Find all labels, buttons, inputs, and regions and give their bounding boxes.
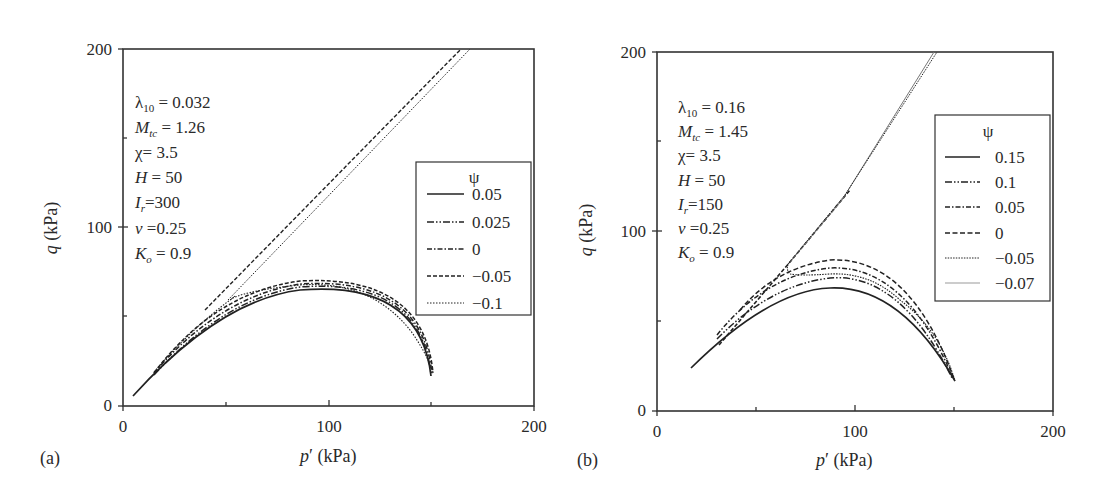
svg-text:ν =0.25: ν =0.25 xyxy=(678,219,729,238)
legend-item-a-3: 0 xyxy=(472,240,481,259)
panel-label-b: (b) xyxy=(577,450,598,471)
ytick-200-a: 200 xyxy=(87,40,113,59)
curve-psi-0.05-a xyxy=(133,289,431,396)
legend-item-a-1: 0.05 xyxy=(472,185,502,204)
legend-b: ψ 0.15 0.1 0.05 0 −0.05 −0.07 xyxy=(935,115,1050,301)
ytick-100-a: 100 xyxy=(87,218,113,237)
svg-text:Ir=300: Ir=300 xyxy=(134,193,180,214)
panel-label-a: (a) xyxy=(40,448,60,469)
svg-text:λ10 = 0.032: λ10 = 0.032 xyxy=(135,93,211,114)
xtick-200-a: 200 xyxy=(521,417,547,436)
xtick-100-b: 100 xyxy=(842,422,868,441)
xtick-200-b: 200 xyxy=(1040,422,1066,441)
ytick-200-b: 200 xyxy=(621,43,647,62)
curve-psi-0.15-b xyxy=(691,288,955,381)
xtick-0-a: 0 xyxy=(119,417,128,436)
svg-text:Mtc = 1.45: Mtc = 1.45 xyxy=(677,122,748,143)
legend-item-a-5: −0.1 xyxy=(472,294,503,313)
panel-a: 200 100 0 0 100 200 p′ (kPa) q (kPa) (a)… xyxy=(40,40,547,469)
svg-text:Ir=150: Ir=150 xyxy=(677,195,723,216)
ytick-100-b: 100 xyxy=(621,222,647,241)
svg-text:H = 50: H = 50 xyxy=(677,171,725,190)
y-axis-label-a: q (kPa) xyxy=(41,202,62,255)
legend-item-b-6: −0.07 xyxy=(995,274,1035,293)
curve-psi-neg0.05-a xyxy=(154,281,433,373)
svg-text:H = 50: H = 50 xyxy=(134,168,182,187)
x-axis-label-b: p′ (kPa) xyxy=(814,450,872,471)
legend-item-b-1: 0.15 xyxy=(995,148,1025,167)
svg-text:Mtc = 1.26: Mtc = 1.26 xyxy=(134,118,205,139)
legend-item-a-4: −0.05 xyxy=(472,267,511,286)
legend-title-b: ψ xyxy=(983,122,994,141)
xtick-100-a: 100 xyxy=(316,417,342,436)
csl-line-light-b xyxy=(790,52,934,262)
y-axis-label-b: q (kPa) xyxy=(576,204,597,257)
legend-a: ψ 0.05 0.025 0 −0.05 −0.1 xyxy=(416,162,531,315)
legend-item-b-5: −0.05 xyxy=(995,249,1034,268)
ytick-0-a: 0 xyxy=(104,396,113,415)
parameter-block-b: λ10 = 0.16 Mtc = 1.45 χ= 3.5 H = 50 Ir=1… xyxy=(677,98,748,264)
svg-text:χ= 3.5: χ= 3.5 xyxy=(677,146,721,165)
legend-item-b-3: 0.05 xyxy=(995,198,1025,217)
svg-text:λ10 = 0.16: λ10 = 0.16 xyxy=(678,98,745,119)
legend-item-a-2: 0.025 xyxy=(472,213,510,232)
ytick-0-b: 0 xyxy=(638,401,647,420)
x-axis-label-a: p′ (kPa) xyxy=(298,446,356,467)
legend-item-b-2: 0.1 xyxy=(995,173,1016,192)
svg-text:χ= 3.5: χ= 3.5 xyxy=(134,143,178,162)
svg-text:Ko = 0.9: Ko = 0.9 xyxy=(134,244,191,265)
figure: 200 100 0 0 100 200 p′ (kPa) q (kPa) (a)… xyxy=(0,0,1110,484)
svg-text:ν =0.25: ν =0.25 xyxy=(135,219,186,238)
parameter-block-a: λ10 = 0.032 Mtc = 1.26 χ= 3.5 H = 50 Ir=… xyxy=(134,93,211,265)
legend-item-b-4: 0 xyxy=(995,224,1004,243)
svg-text:Ko = 0.9: Ko = 0.9 xyxy=(677,243,734,264)
panel-b: 200 100 0 0 100 200 p′ (kPa) q (kPa) (b)… xyxy=(576,43,1066,471)
xtick-0-b: 0 xyxy=(653,422,662,441)
